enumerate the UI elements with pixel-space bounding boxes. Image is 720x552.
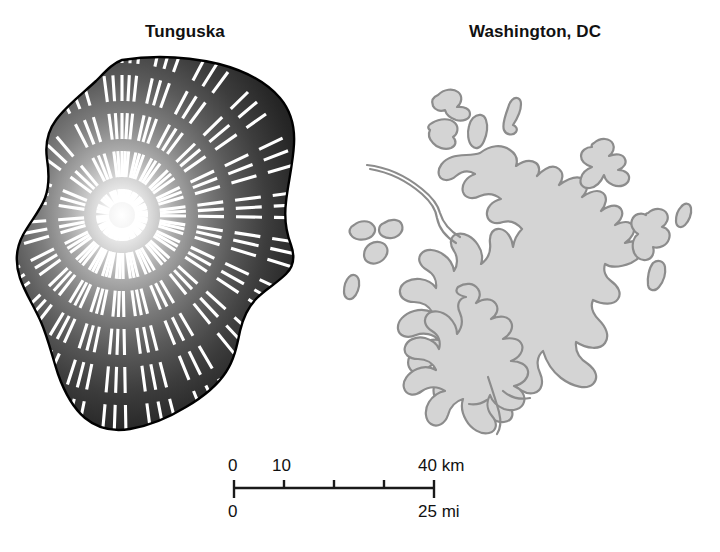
urban-patch-9	[350, 221, 376, 239]
urban-patch-10	[379, 220, 402, 238]
scale-bar-graphic	[210, 452, 510, 542]
scale-bar-axis	[234, 480, 434, 498]
scale-bar: 0 10 40 km 0 25 mi	[210, 452, 510, 542]
urban-patch-5	[580, 139, 629, 188]
washington-urban-area-svg	[340, 55, 720, 445]
figure-root: Tunguska Washington, DC	[0, 0, 720, 552]
urban-patch-7	[676, 204, 691, 227]
urban-patch-2	[428, 119, 457, 149]
tunguska-map	[14, 52, 334, 442]
washington-dc-map	[340, 55, 720, 445]
urban-patch-3	[468, 115, 487, 148]
urban-patch-1	[432, 90, 470, 121]
urban-patch-12	[344, 275, 359, 299]
panel-title-tunguska: Tunguska	[0, 22, 370, 42]
scale-label-mi-25: 25 mi	[418, 502, 460, 522]
urban-patch-4	[503, 98, 521, 135]
urban-patch-11	[364, 242, 387, 264]
scale-label-mi-0: 0	[228, 502, 237, 522]
urban-patch-6	[631, 209, 669, 260]
tunguska-blast-zone-svg	[14, 52, 334, 442]
panel-title-washington: Washington, DC	[350, 22, 720, 42]
urban-area-polygons	[344, 90, 691, 434]
urban-patch-8	[648, 261, 665, 290]
